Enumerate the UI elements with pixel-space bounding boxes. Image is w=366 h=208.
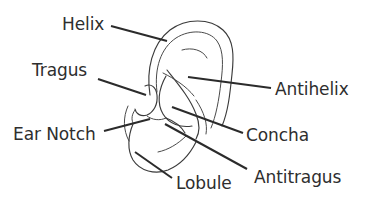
leader-line-helix [111, 26, 167, 41]
ear-outline-group [124, 21, 233, 172]
antihelix-upper-crus-path [182, 49, 207, 58]
lobule-crease-path [158, 136, 186, 152]
leader-line-ear-notch [104, 119, 150, 131]
leader-line-antihelix [188, 77, 271, 88]
label-tragus: Tragus [32, 62, 87, 79]
ear-notch-arc-path [124, 106, 129, 141]
label-ear-notch: Ear Notch [13, 126, 96, 143]
leader-lines-group [98, 26, 271, 178]
label-antihelix: Antihelix [275, 81, 349, 98]
tragus-path [135, 85, 157, 116]
tragus-base-path [132, 110, 135, 123]
leader-line-tragus [98, 79, 146, 95]
label-helix: Helix [62, 16, 104, 33]
lobule-path [129, 124, 196, 172]
label-concha: Concha [246, 127, 309, 144]
label-antitragus: Antitragus [254, 169, 341, 186]
ear-anatomy-diagram: Helix Tragus Ear Notch Antihelix Concha … [0, 0, 366, 208]
leader-line-lobule [135, 152, 172, 178]
label-lobule: Lobule [176, 175, 232, 192]
